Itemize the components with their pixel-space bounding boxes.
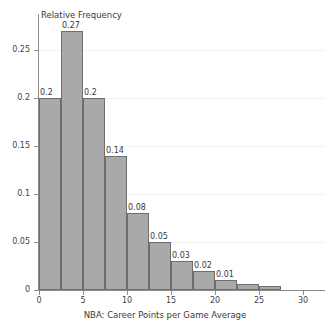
bar-value-label: 0.14 — [106, 146, 124, 155]
x-tick-mark — [171, 291, 172, 295]
x-tick-label: 20 — [200, 296, 230, 305]
histogram-bar — [127, 213, 149, 290]
x-tick-label: 10 — [112, 296, 142, 305]
x-tick-mark — [83, 291, 84, 295]
bar-value-label: 0.01 — [216, 270, 234, 279]
y-axis-title: Relative Frequency — [41, 10, 122, 20]
x-axis-line — [38, 290, 325, 291]
x-tick-label: 25 — [244, 296, 274, 305]
y-tick-label: 0 — [0, 285, 30, 294]
y-tick-mark — [34, 98, 39, 99]
histogram-bar — [61, 31, 83, 290]
histogram-bar — [149, 242, 171, 290]
x-tick-label: 15 — [156, 296, 186, 305]
histogram-bar — [215, 280, 237, 290]
histogram-bar — [83, 98, 105, 290]
x-tick-label: 0 — [24, 296, 54, 305]
plot-area: 0.20.270.20.140.080.050.030.020.01 00.05… — [0, 0, 330, 333]
histogram-bar — [105, 156, 127, 290]
bar-value-label: 0.08 — [128, 203, 146, 212]
y-tick-label: 0.25 — [0, 45, 30, 54]
y-tick-mark — [34, 242, 39, 243]
x-tick-label: 30 — [288, 296, 318, 305]
y-tick-label: 0.15 — [0, 141, 30, 150]
x-tick-mark — [303, 291, 304, 295]
y-axis-line — [38, 14, 39, 291]
bar-value-label: 0.27 — [62, 21, 80, 30]
bar-value-label: 0.05 — [150, 232, 168, 241]
x-tick-mark — [259, 291, 260, 295]
y-tick-mark — [34, 146, 39, 147]
bar-value-label: 0.2 — [40, 88, 53, 97]
bar-value-label: 0.03 — [172, 251, 190, 260]
x-axis-title: NBA: Career Points per Game Average — [0, 310, 330, 320]
x-tick-mark — [215, 291, 216, 295]
y-tick-mark — [34, 50, 39, 51]
bar-value-label: 0.2 — [84, 88, 97, 97]
histogram-bar — [193, 271, 215, 290]
histogram-bar — [171, 261, 193, 290]
x-tick-mark — [127, 291, 128, 295]
histogram-bar — [39, 98, 61, 290]
histogram-chart: 0.20.270.20.140.080.050.030.020.01 00.05… — [0, 0, 330, 333]
x-tick-mark — [39, 291, 40, 295]
x-tick-label: 5 — [68, 296, 98, 305]
y-tick-label: 0.2 — [0, 93, 30, 102]
y-tick-mark — [34, 194, 39, 195]
y-tick-label: 0.1 — [0, 189, 30, 198]
y-tick-label: 0.05 — [0, 237, 30, 246]
bar-value-label: 0.02 — [194, 261, 212, 270]
